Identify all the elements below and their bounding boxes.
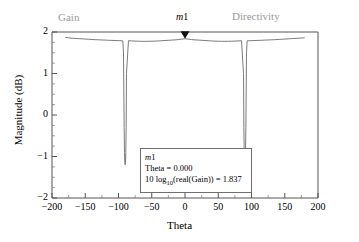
callout-theta: Theta = 0.000: [145, 163, 247, 174]
marker-callout-box: m1 Theta = 0.000 10 log10(real(Gain)) = …: [140, 148, 252, 193]
y-tick-label: 0: [22, 108, 48, 119]
callout-title-index: 1: [151, 152, 155, 162]
x-tick-label: 200: [298, 201, 338, 212]
y-tick-label: 2: [22, 25, 48, 36]
callout-gain-prefix: 10 log: [145, 174, 167, 184]
data-series-layer: [65, 37, 304, 164]
marker-layer: [181, 31, 190, 39]
chart-figure: Gain Directivity m1 −200−150−100−5005010…: [0, 0, 359, 242]
callout-gain: 10 log10(real(Gain)) = 1.837: [145, 174, 247, 188]
y-axis-title: Magnitude (dB): [12, 40, 24, 180]
series-line-gain: [65, 37, 304, 164]
y-tick-label: 1: [22, 67, 48, 78]
callout-title: m1: [145, 152, 247, 163]
callout-gain-suffix: (real(Gain)) = 1.837: [173, 174, 242, 184]
x-axis-title: Theta: [0, 219, 359, 231]
marker-m1-triangle[interactable]: [181, 31, 190, 39]
y-tick-label: −1: [22, 150, 48, 161]
y-tick-label: −2: [22, 191, 48, 202]
